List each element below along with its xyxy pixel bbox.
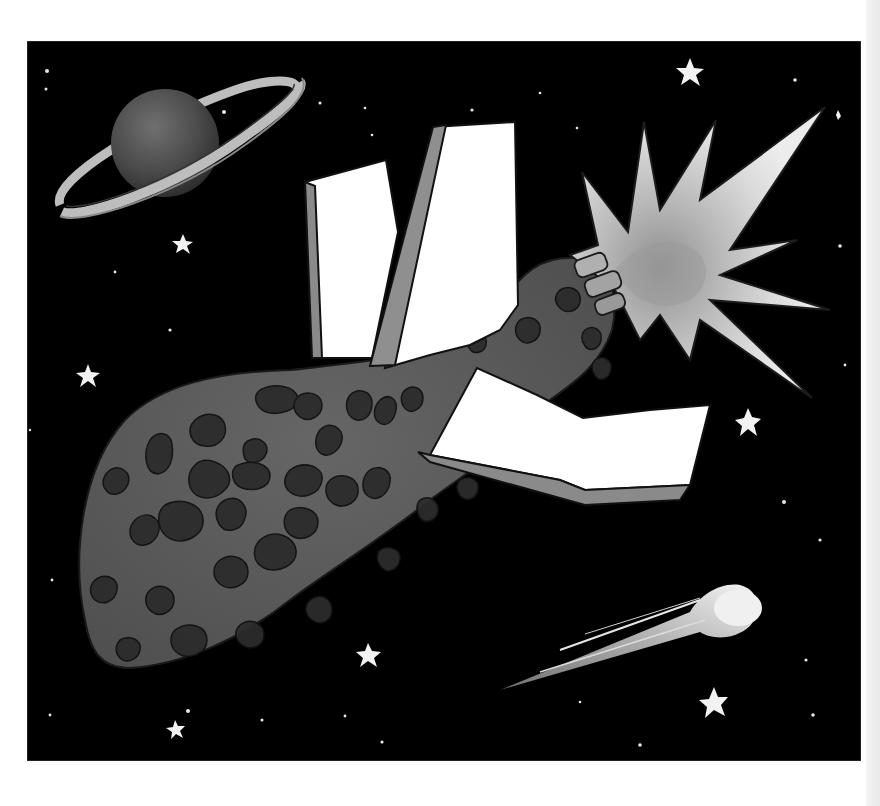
page-edge <box>866 0 880 806</box>
space-illustration <box>27 41 861 761</box>
